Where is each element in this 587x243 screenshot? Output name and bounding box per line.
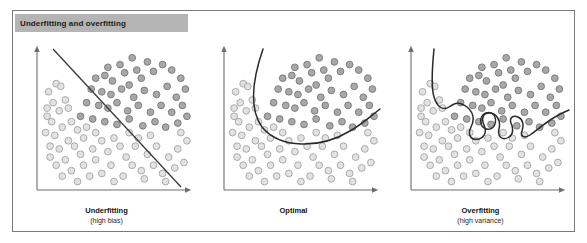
data-point: [285, 88, 292, 95]
data-point: [98, 137, 105, 144]
data-point: [346, 61, 353, 68]
data-point: [457, 124, 464, 131]
data-point: [132, 143, 139, 150]
data-point: [524, 162, 531, 169]
data-point: [328, 87, 335, 94]
data-point: [498, 107, 505, 114]
data-point: [45, 88, 52, 95]
data-point: [168, 67, 175, 74]
panel-optimal: Optimal: [200, 35, 387, 231]
data-point: [515, 87, 522, 94]
data-point: [48, 118, 55, 125]
data-point: [120, 173, 127, 180]
data-point: [238, 132, 245, 139]
data-point: [542, 67, 549, 74]
data-point: [133, 67, 140, 74]
axes-underfitting: [37, 49, 188, 190]
data-point: [249, 156, 256, 163]
data-point: [264, 113, 271, 120]
data-point: [111, 178, 118, 185]
axes-overfitting: [411, 49, 562, 190]
data-point: [258, 143, 265, 150]
data-point: [325, 75, 332, 82]
data-point: [165, 154, 172, 161]
data-point: [129, 54, 136, 61]
data-point: [74, 126, 81, 133]
data-point: [526, 118, 533, 125]
data-point: [80, 135, 87, 142]
data-point: [68, 118, 75, 125]
plot-optimal: [200, 35, 387, 203]
data-point: [307, 173, 314, 180]
data-point: [270, 99, 277, 106]
data-point: [310, 154, 317, 161]
data-point: [472, 170, 479, 177]
data-point: [448, 126, 455, 133]
data-point: [421, 154, 428, 161]
data-point: [337, 162, 344, 169]
data-point: [59, 173, 66, 180]
data-point: [485, 135, 492, 142]
data-point: [485, 178, 492, 185]
data-point: [234, 143, 241, 150]
data-point: [141, 87, 148, 94]
data-point: [503, 54, 510, 61]
decision-boundary-underfitting: [53, 49, 181, 187]
data-point: [47, 154, 54, 161]
data-point: [235, 118, 242, 125]
data-point: [141, 175, 148, 182]
data-point: [325, 167, 332, 174]
data-point: [171, 165, 178, 172]
data-point: [42, 129, 49, 136]
data-point: [500, 82, 507, 89]
data-point: [533, 61, 540, 68]
data-point: [308, 69, 315, 76]
data-point: [150, 68, 157, 75]
data-point: [551, 75, 558, 82]
data-point: [234, 154, 241, 161]
data-point: [291, 105, 298, 112]
data-point: [243, 107, 250, 114]
data-point: [527, 91, 534, 98]
scatter-svg-optimal: [200, 35, 387, 203]
data-point: [553, 102, 560, 109]
data-point: [533, 170, 540, 177]
data-point: [316, 162, 323, 169]
data-point: [153, 91, 160, 98]
data-point: [512, 167, 519, 174]
data-point: [554, 159, 561, 166]
data-point: [121, 69, 128, 76]
data-point: [547, 94, 554, 101]
data-point: [86, 173, 93, 180]
data-point: [108, 162, 115, 169]
data-point: [249, 97, 256, 104]
data-point: [273, 173, 280, 180]
data-point: [492, 86, 499, 93]
data-point: [352, 154, 359, 161]
data-point: [252, 137, 259, 144]
data-point: [282, 102, 289, 109]
data-point: [62, 97, 69, 104]
data-point: [451, 151, 458, 158]
data-point: [319, 143, 326, 150]
data-point: [124, 107, 131, 114]
data-point: [108, 91, 115, 98]
data-point: [483, 78, 490, 85]
data-point: [328, 175, 335, 182]
data-point: [556, 86, 563, 93]
data-point: [430, 146, 437, 153]
data-point: [472, 88, 479, 95]
data-point: [301, 121, 308, 128]
axes-optimal: [224, 49, 375, 190]
data-point: [291, 64, 298, 71]
data-point: [180, 159, 187, 166]
data-point: [361, 146, 368, 153]
points-light-optimal: [229, 80, 377, 185]
data-point: [295, 162, 302, 169]
data-point: [427, 162, 434, 169]
data-point: [478, 148, 485, 155]
data-point: [500, 129, 507, 136]
data-point: [419, 88, 426, 95]
data-point: [144, 58, 151, 65]
data-point: [515, 175, 522, 182]
